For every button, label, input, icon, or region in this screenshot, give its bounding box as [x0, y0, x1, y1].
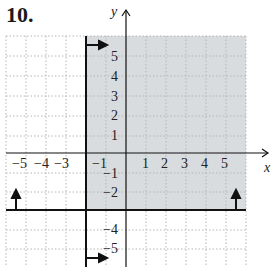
- y-tick-label: −4: [103, 222, 118, 237]
- y-tick-label: −2: [103, 185, 118, 200]
- y-tick-label: −1: [103, 166, 118, 181]
- x-tick-label: −4: [34, 156, 49, 171]
- y-tick-label: 3: [111, 89, 118, 104]
- x-tick-label: 3: [181, 156, 188, 171]
- y-axis-label: y: [109, 4, 118, 19]
- x-tick-label: 1: [142, 156, 149, 171]
- y-tick-label: 2: [111, 108, 118, 123]
- x-tick-label: 4: [201, 156, 208, 171]
- y-tick-label: 5: [111, 49, 118, 64]
- coordinate-graph: y x −5 −4 −3 −1 1 2 3 4 5 5 4 3 2 1 −1 −…: [0, 0, 272, 267]
- y-tick-label: 4: [111, 69, 118, 84]
- x-tick-label: −5: [12, 156, 27, 171]
- x-tick-label: 2: [161, 156, 168, 171]
- x-tick-label: 5: [221, 156, 228, 171]
- arrow-up-icon: [12, 190, 20, 198]
- y-tick-label: 1: [111, 128, 118, 143]
- x-tick-label: −3: [54, 156, 69, 171]
- y-tick-label: −5: [103, 241, 118, 256]
- x-axis-label: x: [263, 160, 271, 175]
